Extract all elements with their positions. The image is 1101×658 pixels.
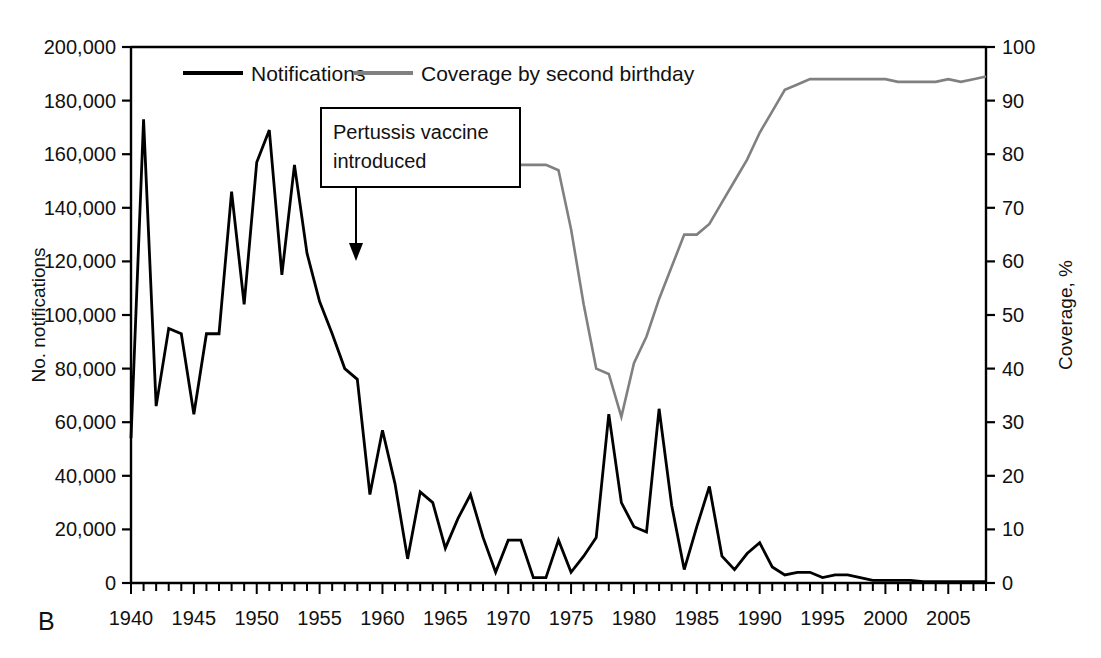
- right-axis-title: Coverage, %: [1055, 260, 1076, 370]
- right-axis-tick-label: 0: [1002, 572, 1013, 594]
- right-axis-tick-label: 40: [1002, 358, 1024, 380]
- left-axis-tick-label: 100,000: [44, 304, 116, 326]
- x-axis-tick-label: 1985: [675, 607, 720, 629]
- right-axis-tick-label: 10: [1002, 518, 1024, 540]
- x-axis-tick-label: 1950: [234, 607, 279, 629]
- left-axis-tick-label: 160,000: [44, 143, 116, 165]
- right-axis-tick-label: 100: [1002, 36, 1035, 58]
- right-axis-tick-label: 20: [1002, 465, 1024, 487]
- left-axis-tick-label: 80,000: [55, 358, 116, 380]
- x-axis-tick-label: 1975: [549, 607, 594, 629]
- figure-panel-b: 020,00040,00060,00080,000100,000120,0001…: [0, 0, 1101, 658]
- legend-label-coverage: Coverage by second birthday: [421, 62, 695, 85]
- right-axis-tick-label: 30: [1002, 411, 1024, 433]
- left-axis-tick-label: 120,000: [44, 250, 116, 272]
- x-axis-tick-label: 1940: [109, 607, 154, 629]
- x-axis-tick-label: 2005: [926, 607, 971, 629]
- left-axis-title: No. notifications: [28, 247, 49, 382]
- x-axis-tick-label: 1990: [737, 607, 782, 629]
- right-axis-tick-label: 50: [1002, 304, 1024, 326]
- right-axis-tick-label: 80: [1002, 143, 1024, 165]
- annotation-box: [321, 108, 520, 187]
- x-axis-tick-label: 1995: [800, 607, 845, 629]
- legend-label-notifications: Notifications: [251, 62, 365, 85]
- left-axis-tick-label: 20,000: [55, 518, 116, 540]
- pertussis-notifications-coverage-chart: 020,00040,00060,00080,000100,000120,0001…: [0, 0, 1101, 658]
- annotation-line-2: introduced: [333, 150, 426, 172]
- left-axis-tick-label: 140,000: [44, 197, 116, 219]
- x-axis-tick-label: 1980: [612, 607, 657, 629]
- x-axis-tick-label: 1955: [297, 607, 342, 629]
- panel-label: B: [38, 607, 55, 635]
- x-axis-tick-label: 1945: [172, 607, 217, 629]
- right-axis-tick-label: 90: [1002, 90, 1024, 112]
- x-axis-tick-label: 1970: [486, 607, 531, 629]
- right-axis-tick-label: 60: [1002, 250, 1024, 272]
- left-axis-tick-label: 180,000: [44, 90, 116, 112]
- left-axis-tick-label: 40,000: [55, 465, 116, 487]
- left-axis-tick-label: 0: [105, 572, 116, 594]
- chart-background: [0, 0, 1101, 658]
- x-axis-tick-label: 1960: [360, 607, 405, 629]
- annotation-line-1: Pertussis vaccine: [333, 121, 489, 143]
- x-axis-tick-label: 1965: [423, 607, 468, 629]
- left-axis-tick-label: 200,000: [44, 36, 116, 58]
- right-axis-tick-label: 70: [1002, 197, 1024, 219]
- legend-layer: NotificationsCoverage by second birthday: [183, 62, 695, 85]
- x-axis-tick-label: 2000: [863, 607, 908, 629]
- left-axis-tick-label: 60,000: [55, 411, 116, 433]
